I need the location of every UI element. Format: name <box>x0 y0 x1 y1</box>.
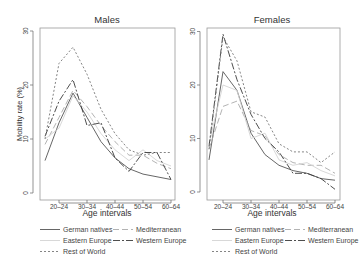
y-tick-label: 30 <box>22 27 29 35</box>
x-tick-label: 50–54 <box>298 203 316 210</box>
legend-label: Mediterranean <box>136 226 181 233</box>
males-legend: German nativesMediterraneanEastern Europ… <box>40 226 187 255</box>
males-lines <box>45 47 171 179</box>
females-legend: German nativesMediterraneanEastern Europ… <box>212 226 359 255</box>
females-plot-frame <box>207 28 340 200</box>
legend-label: Western Europe <box>136 237 187 245</box>
series-line-western-europe <box>209 34 335 189</box>
series-line-eastern-europe <box>45 96 171 166</box>
legend-label: Eastern Europe <box>235 237 284 245</box>
legend-label: Eastern Europe <box>63 237 112 245</box>
series-line-western-europe <box>45 80 171 180</box>
series-line-rest-of-world <box>45 47 171 155</box>
males-panel: Males 0102030 20–2430–3440–4450–5460–64 … <box>15 14 180 218</box>
series-line-rest-of-world <box>209 37 335 163</box>
y-tick-label: 0 <box>22 191 29 195</box>
x-tick-label: 60–64 <box>326 203 344 210</box>
males-x-label: Age intervals <box>82 208 131 218</box>
x-tick-label: 60–64 <box>162 203 180 210</box>
x-tick-label: 50–54 <box>134 203 152 210</box>
legend-label: Mediterranean <box>308 226 353 233</box>
males-title: Males <box>94 14 120 25</box>
y-tick-label: 30 <box>189 28 196 36</box>
y-tick-label: 0 <box>189 190 196 194</box>
series-line-mediterranean <box>209 101 335 173</box>
x-tick-label: 20–24 <box>50 203 68 210</box>
series-line-german-natives <box>45 93 171 179</box>
y-tick-label: 10 <box>189 135 196 143</box>
figure: Males 0102030 20–2430–3440–4450–5460–64 … <box>0 0 361 267</box>
series-line-german-natives <box>209 72 335 181</box>
males-y-label: Mobility rate (%) <box>15 86 24 141</box>
legend-label: German natives <box>235 226 285 233</box>
x-tick-label: 20–24 <box>214 203 232 210</box>
legend-label: Rest of World <box>63 248 105 255</box>
females-panel: Females 0102030 20–2430–3440–4450–5460–6… <box>189 14 344 218</box>
females-title: Females <box>254 14 291 25</box>
females-y-axis: 0102030 <box>189 28 200 194</box>
y-tick-label: 20 <box>189 81 196 89</box>
legend-label: Rest of World <box>235 248 277 255</box>
series-line-eastern-europe <box>209 85 335 176</box>
males-plot-frame <box>40 28 175 200</box>
legend-label: German natives <box>63 226 113 233</box>
females-lines <box>209 34 335 189</box>
females-x-label: Age intervals <box>247 208 296 218</box>
legend-label: Western Europe <box>308 237 359 245</box>
